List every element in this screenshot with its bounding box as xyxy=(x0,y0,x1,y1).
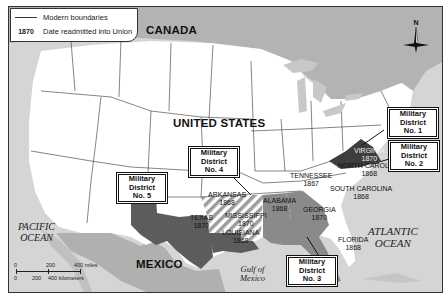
label-united-states: UNITED STATES xyxy=(173,117,265,129)
scale-km-400: 400 kilometers xyxy=(48,275,84,281)
state-name: MISSISSIPPI xyxy=(225,212,267,220)
state-year: 1870 xyxy=(225,220,267,228)
map-legend: Modern boundaries 1870 Date readmitted i… xyxy=(10,8,138,42)
state-year: 1867 xyxy=(290,180,332,188)
label-mexico: MEXICO xyxy=(136,258,183,270)
label-gulf-of-mexico: Gulf of Mexico xyxy=(240,265,265,283)
state-virginia: VIRGINIA1870 xyxy=(354,147,385,163)
scale-km-200: 200 xyxy=(32,275,41,281)
compass-north-label: N xyxy=(413,19,418,26)
scale-miles-0: 0 xyxy=(14,262,17,268)
label-atlantic-ocean: ATLANTIC OCEAN xyxy=(368,226,418,249)
pacific-line1: PACIFIC xyxy=(18,222,55,233)
state-louisiana: LOUISIANA1868 xyxy=(222,229,259,245)
scale-km-0: 0 xyxy=(14,275,17,281)
state-name: VIRGINIA xyxy=(354,147,385,155)
scale-miles-400: 400 miles xyxy=(74,262,98,268)
legend-item-boundaries: Modern boundaries xyxy=(15,13,108,22)
state-florida: FLORIDA1868 xyxy=(338,236,368,252)
state-name: TENNESSEE xyxy=(290,172,332,180)
legend-label: Date readmitted into Union xyxy=(43,27,132,36)
state-year: 1868 xyxy=(330,193,392,201)
atlantic-line2: OCEAN xyxy=(368,238,418,250)
state-south-carolina: SOUTH CAROLINA1868 xyxy=(330,185,392,201)
gulf-line2: Mexico xyxy=(240,274,265,283)
state-year: 1868 xyxy=(222,237,259,245)
military-district-1-label: Military DistrictNo. 1 xyxy=(387,107,439,139)
state-name: ARKANSAS xyxy=(208,191,246,199)
state-texas: TEXAS1870 xyxy=(190,214,213,230)
military-district-3-label: Military DistrictNo. 3 xyxy=(286,255,338,287)
pacific-line2: OCEAN xyxy=(18,233,55,244)
state-name: FLORIDA xyxy=(338,236,368,244)
state-georgia: GEORGIA1870 xyxy=(303,206,336,222)
military-district-4-label: Military DistrictNo. 4 xyxy=(188,146,240,178)
scale-bar: 0 200 400 miles 0 200 400 kilometers xyxy=(10,262,120,290)
label-pacific-ocean: PACIFIC OCEAN xyxy=(18,222,55,243)
state-arkansas: ARKANSAS1868 xyxy=(208,191,246,207)
state-name: ALABAMA xyxy=(263,197,296,205)
atlantic-line1: ATLANTIC xyxy=(368,226,418,238)
compass-rose-icon: N xyxy=(393,17,439,63)
state-year: 1868 xyxy=(208,199,246,207)
state-mississippi: MISSISSIPPI1870 xyxy=(225,212,267,228)
state-name: SOUTH CAROLINA xyxy=(330,185,392,193)
state-year: 1870 xyxy=(190,222,213,230)
boundary-line-icon xyxy=(15,17,37,18)
state-year: 1870 xyxy=(303,214,336,222)
military-district-5-label: Military DistrictNo. 5 xyxy=(116,172,168,204)
legend-label: Modern boundaries xyxy=(43,13,108,22)
state-name: TEXAS xyxy=(190,214,213,222)
legend-symbol-year: 1870 xyxy=(15,28,37,35)
state-year: 1868 xyxy=(263,205,296,213)
state-name: LOUISIANA xyxy=(222,229,259,237)
state-alabama: ALABAMA1868 xyxy=(263,197,296,213)
scale-miles-200: 200 xyxy=(46,262,55,268)
state-name: GEORGIA xyxy=(303,206,336,214)
military-district-2-label: Military DistrictNo. 2 xyxy=(388,140,440,172)
label-canada: CANADA xyxy=(146,24,197,36)
state-year: 1868 xyxy=(338,244,368,252)
legend-item-date: 1870 Date readmitted into Union xyxy=(15,27,132,36)
state-tennessee: TENNESSEE1867 xyxy=(290,172,332,188)
